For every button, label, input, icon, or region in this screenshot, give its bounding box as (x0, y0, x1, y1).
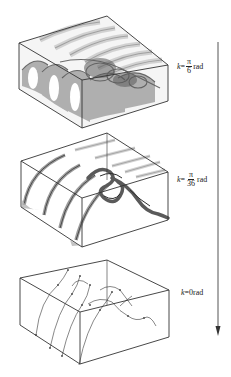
label-fraction: π 36 (186, 171, 196, 188)
panel-3-label: k = 0 rad (181, 288, 203, 297)
down-arrow-icon (216, 42, 221, 336)
label-unit: rad (193, 62, 203, 71)
label-eq: = (181, 175, 186, 184)
panel-3-curves (36, 270, 156, 365)
label-unit: rad (193, 288, 203, 297)
figure-canvas (0, 0, 231, 377)
panel-1-surface (19, 16, 168, 128)
panel-3-dots (35, 269, 145, 357)
fraction-denominator: 36 (186, 180, 196, 188)
label-unit: rad (197, 175, 207, 184)
panel-2-box (21, 133, 168, 247)
label-eq: = (181, 62, 186, 71)
label-fraction: π 6 (186, 58, 192, 75)
panel-2-surface (22, 140, 168, 246)
panel-2-label: k = π 36 rad (177, 171, 207, 188)
fraction-denominator: 6 (186, 67, 192, 75)
panel-1-box (19, 16, 168, 128)
panel-3-box (20, 260, 169, 365)
panel-1-label: k = π 6 rad (177, 58, 203, 75)
